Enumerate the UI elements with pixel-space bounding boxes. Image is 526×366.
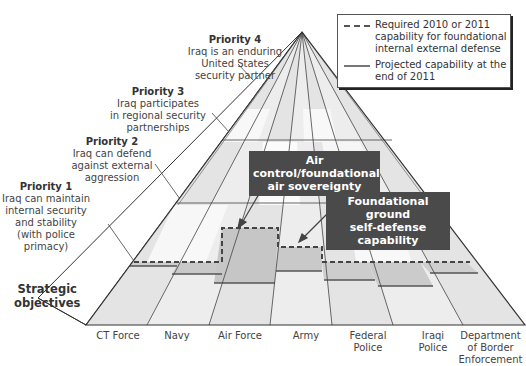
dashed-line-icon — [344, 25, 370, 55]
column-label-navy: Navy — [152, 330, 202, 342]
federal-police-projected — [322, 262, 375, 280]
army-projected — [276, 247, 322, 271]
air-sovereignty-callout: Air control/foundational air sovereignty — [249, 151, 380, 196]
column-label-federal-police: Federal Police — [340, 330, 396, 354]
legend-required-text: Required 2010 or 2011 — [375, 19, 507, 31]
legend: Required 2010 or 2011 capability for fou… — [337, 14, 511, 88]
ground-self-defense-callout: Foundational ground self-defense capabil… — [326, 192, 450, 250]
column-label-army: Army — [281, 330, 331, 342]
air-force-projected — [214, 228, 278, 283]
priority-3-label: Priority 3 Iraq participates in regional… — [108, 86, 208, 134]
legend-item-projected: Projected capability at the end of 2011 — [344, 59, 506, 83]
column-label-air-force: Air Force — [210, 330, 270, 342]
priority-2-label: Priority 2 Iraq can defend against exter… — [64, 136, 160, 184]
strategic-objectives-label: Strategic objectives — [14, 282, 80, 310]
legend-item-required: Required 2010 or 2011 capability for fou… — [344, 19, 507, 55]
priority-4-label: Priority 4 Iraq is an enduring United St… — [175, 34, 295, 82]
column-label-ct-force: CT Force — [88, 330, 148, 342]
column-label-border-enforcement: Department of Border Enforcement — [455, 330, 526, 366]
priority-1-label: Priority 1 Iraq can maintain internal se… — [0, 181, 92, 253]
legend-projected-text: Projected capability at the — [375, 59, 506, 71]
solid-line-icon — [344, 65, 370, 83]
column-label-iraqi-police: Iraqi Police — [408, 330, 458, 354]
